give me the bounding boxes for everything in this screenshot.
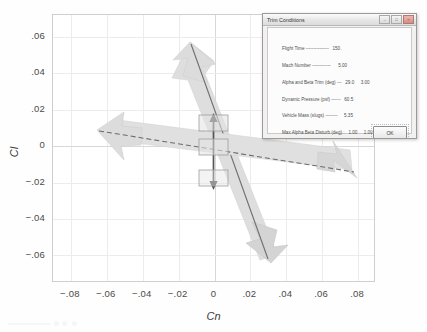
maximize-icon[interactable]: □ (391, 15, 402, 24)
close-icon[interactable]: × (403, 15, 414, 24)
trim-line: Dynamic Pressure (psf) ------ 60.5 (282, 97, 407, 103)
marker-box-upper (199, 115, 228, 131)
scan-artifact (8, 323, 50, 325)
dialog-title: Trim Conditions (265, 17, 379, 23)
marker-box-lower (199, 170, 228, 186)
trim-line: Mach Number ------------ 5.00 (282, 63, 407, 69)
ok-button[interactable]: OK (373, 126, 407, 139)
origin-marker-boxes (199, 115, 228, 186)
figure-canvas: −.08 −.06 −.04 −.02 0 .02 .04 .06 .08 .0… (0, 0, 427, 332)
trim-line: Flight Time --------------- 150. (282, 46, 407, 52)
trim-conditions-dialog[interactable]: Trim Conditions – □ × Flight Time ------… (262, 13, 417, 139)
scan-artifact (62, 321, 67, 326)
minimize-icon[interactable]: – (379, 15, 390, 24)
window-controls[interactable]: – □ × (379, 15, 414, 24)
marker-box-center (199, 139, 228, 155)
scan-artifact (72, 321, 77, 326)
scan-artifact (54, 321, 59, 326)
dialog-body: Flight Time --------------- 150. Mach Nu… (267, 27, 412, 134)
trim-line: Vehicle Mass (slugs) -------- 5.35 (282, 113, 407, 119)
trim-line: Alpha and Beta Trim (deg) --- 29.0 3.00 (282, 80, 407, 86)
dialog-titlebar[interactable]: Trim Conditions – □ × (263, 14, 416, 26)
